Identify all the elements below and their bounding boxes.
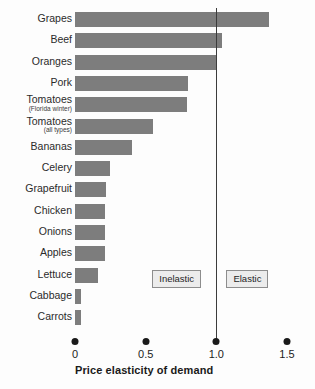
- bar: [75, 225, 105, 240]
- bar: [75, 12, 269, 27]
- x-axis-tick-label: 0.5: [138, 348, 153, 360]
- bar-category-label: Beef: [0, 33, 72, 45]
- x-axis-tick-label: 0: [72, 348, 78, 360]
- bar: [75, 55, 216, 70]
- bar: [75, 97, 187, 112]
- bar-category-label: Carrots: [0, 310, 72, 322]
- bar-category-label: Apples: [0, 246, 72, 258]
- x-axis-tick-dot: [284, 338, 291, 345]
- bar: [75, 310, 81, 325]
- bar-category-label: Cabbage: [0, 289, 72, 301]
- bar: [75, 140, 132, 155]
- bar: [75, 119, 153, 134]
- unit-elastic-reference-line: [216, 8, 218, 340]
- bar: [75, 246, 105, 261]
- bar: [75, 161, 110, 176]
- bar-row: Apples: [0, 245, 315, 263]
- bar: [75, 268, 98, 283]
- bar-category-label: Chicken: [0, 204, 72, 216]
- price-elasticity-bar-chart: GrapesBeefOrangesPorkTomatoes(Florida wi…: [0, 0, 315, 389]
- bar-category-label: Tomatoes(all types): [0, 116, 72, 135]
- bar-category-label: Grapes: [0, 12, 72, 24]
- bar: [75, 204, 105, 219]
- bar-row: Bananas: [0, 139, 315, 157]
- x-axis-tick-label: 1.0: [209, 348, 224, 360]
- bar-category-label: Lettuce: [0, 268, 72, 280]
- bar-row: Onions: [0, 224, 315, 242]
- bar-row: Grapefruit: [0, 181, 315, 199]
- bar-row: Oranges: [0, 54, 315, 72]
- x-axis-tick-label: 1.5: [279, 348, 294, 360]
- bar: [75, 289, 81, 304]
- bar-row: Tomatoes(Florida winter): [0, 96, 315, 114]
- bar-category-label: Tomatoes(Florida winter): [0, 94, 72, 113]
- elasticity-region-label: Inelastic: [152, 270, 201, 288]
- bar-category-sublabel: (Florida winter): [0, 105, 72, 113]
- x-axis-tick-dot: [213, 338, 220, 345]
- bar: [75, 76, 188, 91]
- bar-row: Chicken: [0, 203, 315, 221]
- bar: [75, 182, 106, 197]
- bar: [75, 33, 222, 48]
- x-axis-tick-dot: [142, 338, 149, 345]
- x-axis-title: Price elasticity of demand: [75, 364, 213, 376]
- x-axis-tick-dot: [72, 338, 79, 345]
- bar-row: Tomatoes(all types): [0, 118, 315, 136]
- bar-category-label: Celery: [0, 161, 72, 173]
- bar-row: Pork: [0, 75, 315, 93]
- bar-row: Cabbage: [0, 288, 315, 306]
- bar-category-label: Grapefruit: [0, 182, 72, 194]
- bar-row: Celery: [0, 160, 315, 178]
- bar-category-label: Oranges: [0, 55, 72, 67]
- elasticity-region-label: Elastic: [226, 270, 268, 288]
- bar-category-label: Onions: [0, 225, 72, 237]
- bar-category-label: Pork: [0, 76, 72, 88]
- bar-row: Grapes: [0, 11, 315, 29]
- bar-row: Carrots: [0, 309, 315, 327]
- bar-row: Beef: [0, 32, 315, 50]
- bar-category-label: Bananas: [0, 140, 72, 152]
- bar-category-sublabel: (all types): [0, 126, 72, 134]
